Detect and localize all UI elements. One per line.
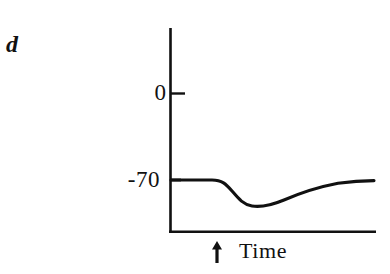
plot-canvas — [0, 0, 390, 274]
y-tick-label-zero: 0 — [146, 81, 166, 104]
y-axis-label: d — [6, 32, 18, 56]
figure-panel: d 0 -70 Time — [0, 0, 390, 274]
stimulus-arrow-icon — [210, 241, 224, 263]
potential-trace — [171, 180, 374, 206]
y-tick-label-neg70: -70 — [112, 168, 160, 191]
x-axis-label: Time — [239, 240, 287, 262]
